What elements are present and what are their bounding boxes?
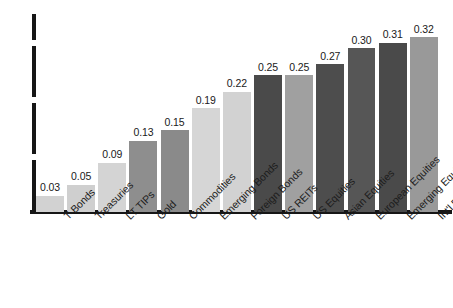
bar-value-label: 0.30 [351, 35, 371, 46]
x-axis-label-11: Emerging Equities [405, 214, 412, 221]
bar-value-label: 0.31 [383, 29, 403, 40]
x-axis-label-5: Emerging Bonds [218, 214, 225, 221]
bar-value-label: 0.05 [71, 171, 91, 182]
bar-group[interactable]: 0.19 [192, 2, 220, 212]
bar-value-label: 0.22 [227, 78, 247, 89]
bar-value-label: 0.09 [102, 149, 122, 160]
x-axis-label-0: T-Bonds [62, 214, 69, 221]
bar-group[interactable]: 0.05 [67, 2, 95, 212]
x-axis-label-7: US REITs [280, 214, 287, 221]
x-axis-label-8: US Equities [311, 214, 318, 221]
bar-group[interactable]: 0.13 [129, 2, 157, 212]
x-axis-label-10: European Equities [374, 214, 381, 221]
bar-value-label: 0.25 [258, 62, 278, 73]
bar-chart: 0.3 0.2 0.1 0.0 0.030.050.090.130.150.19… [0, 0, 453, 308]
bar[interactable] [36, 196, 64, 212]
bar[interactable] [161, 130, 189, 212]
bar-group[interactable]: 0.03 [36, 2, 64, 212]
x-axis-label-12: Int'l REITs [436, 214, 443, 221]
x-axis-label-9: Asian Equities [342, 214, 349, 221]
x-axis-label-3: Gold [155, 214, 162, 221]
x-axis-label-2: LT TIPs [124, 214, 131, 221]
x-axis-label-1: Treasuries [93, 214, 100, 221]
bar-value-label: 0.15 [165, 117, 185, 128]
x-axis-label-6: Foreign Bonds [249, 214, 256, 221]
bar-value-label: 0.25 [289, 62, 309, 73]
x-axis-labels: T-BondsTreasuriesLT TIPsGoldCommoditiesE… [0, 214, 453, 308]
bar-value-label: 0.27 [320, 51, 340, 62]
bar-value-label: 0.19 [196, 95, 216, 106]
bar-value-label: 0.03 [40, 182, 60, 193]
bar-group[interactable]: 0.15 [161, 2, 189, 212]
bar-value-label: 0.32 [414, 24, 434, 35]
bar-value-label: 0.13 [133, 127, 153, 138]
x-axis-label-4: Commodities [187, 214, 194, 221]
bar-group[interactable]: 0.09 [98, 2, 126, 212]
bar-group[interactable]: 0.27 [316, 2, 344, 212]
